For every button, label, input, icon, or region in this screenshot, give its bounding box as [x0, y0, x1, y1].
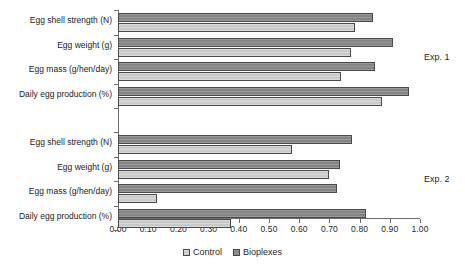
- control-swatch-icon: [183, 249, 190, 256]
- y-tick-mark: [114, 59, 119, 60]
- x-tick-mark: [299, 219, 300, 223]
- y-tick-mark: [114, 108, 119, 109]
- bar-bioplexes: [118, 135, 352, 144]
- x-tick-mark: [269, 219, 270, 223]
- y-tick-mark: [114, 84, 119, 85]
- legend-label-control: Control: [193, 247, 222, 257]
- bar-control: [118, 145, 292, 154]
- category-label: Egg mass (g/hen/day): [29, 64, 112, 74]
- category-label: Daily egg production (%): [19, 211, 112, 221]
- category-label: Egg mass (g/hen/day): [29, 186, 112, 196]
- bar-control: [118, 97, 382, 106]
- bar-chart: 0.000.100.200.300.400.500.600.700.800.90…: [0, 0, 465, 269]
- group-annotation: Exp. 1: [424, 52, 450, 62]
- y-tick-mark: [114, 181, 119, 182]
- bar-bioplexes: [118, 184, 337, 193]
- bioplexes-swatch-icon: [233, 249, 240, 256]
- bar-control: [118, 170, 329, 179]
- bar-bioplexes: [118, 87, 409, 96]
- bar-control: [118, 72, 341, 81]
- y-tick-mark: [114, 35, 119, 36]
- bar-control: [118, 23, 355, 32]
- x-tick-mark: [420, 219, 421, 223]
- bar-bioplexes: [118, 160, 340, 169]
- x-tick-mark: [390, 219, 391, 223]
- y-tick-mark: [114, 132, 119, 133]
- chart-legend: Control Bioplexes: [0, 247, 465, 257]
- bar-bioplexes: [118, 13, 373, 22]
- bar-bioplexes: [118, 38, 393, 47]
- y-tick-mark: [114, 157, 119, 158]
- legend-item-control: Control: [183, 247, 222, 257]
- bar-control: [118, 48, 351, 57]
- bar-bioplexes: [118, 62, 375, 71]
- legend-item-bioplexes: Bioplexes: [233, 247, 282, 257]
- group-annotation: Exp. 2: [424, 174, 450, 184]
- category-label: Daily egg production (%): [19, 89, 112, 99]
- category-label: Egg shell strength (N): [30, 137, 112, 147]
- bar-control: [118, 219, 231, 228]
- x-tick-mark: [360, 219, 361, 223]
- legend-label-bioplexes: Bioplexes: [243, 247, 282, 257]
- y-tick-mark: [114, 230, 119, 231]
- bar-bioplexes: [118, 209, 366, 218]
- category-label: Egg weight (g): [57, 40, 112, 50]
- y-tick-mark: [114, 10, 119, 11]
- x-tick-mark: [239, 219, 240, 223]
- category-label: Egg weight (g): [57, 162, 112, 172]
- category-label: Egg shell strength (N): [30, 15, 112, 25]
- x-tick-mark: [329, 219, 330, 223]
- x-tick-label: 1.00: [400, 224, 440, 234]
- y-tick-mark: [114, 206, 119, 207]
- bar-control: [118, 194, 157, 203]
